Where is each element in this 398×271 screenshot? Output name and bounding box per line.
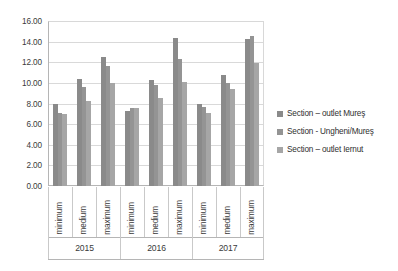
- legend-swatch-icon: [277, 147, 283, 153]
- y-axis-tick-label: 10.00: [0, 78, 42, 87]
- y-axis-label-group: 16.0014.0012.0010.008.006.004.002.000.00: [0, 21, 44, 186]
- x-axis-tick-label: medium: [80, 206, 88, 235]
- x-axis-tick-label: minimum: [200, 202, 208, 235]
- x-axis-tick-cell: maximum: [96, 187, 120, 237]
- bar: [110, 83, 115, 186]
- x-axis-tick-cell: minimum: [192, 187, 216, 237]
- x-axis-tick-cell: maximum: [168, 187, 192, 237]
- x-axis-tick-label: medium: [224, 206, 232, 235]
- x-axis-group-cell: 2015: [48, 237, 120, 259]
- legend-item[interactable]: Section - Ungheni/Mureş: [277, 126, 395, 137]
- y-axis-tick-label: 12.00: [0, 58, 42, 67]
- x-axis-tick-label: minimum: [56, 202, 64, 235]
- x-axis-tick-label: medium: [152, 206, 160, 235]
- bar: [254, 63, 259, 186]
- x-axis-tick-cell: medium: [216, 187, 240, 237]
- x-axis-tick-label: minimum: [128, 202, 136, 235]
- bar: [206, 113, 211, 186]
- bar: [158, 98, 163, 186]
- y-axis-tick-label: 8.00: [0, 99, 42, 108]
- x-axis-group-label: 2015: [75, 243, 94, 253]
- x-axis-tick-cell: minimum: [48, 187, 72, 237]
- bar: [86, 101, 91, 186]
- bar-chart: 16.0014.0012.0010.008.006.004.002.000.00…: [0, 0, 398, 271]
- x-axis-group-cell: 2017: [192, 237, 264, 259]
- x-axis-group-label: 2017: [219, 243, 238, 253]
- y-axis-tick-label: 2.00: [0, 161, 42, 170]
- legend-item[interactable]: Section – outlet Mureş: [277, 108, 395, 119]
- legend-swatch-icon: [277, 111, 283, 117]
- bars-layer: [48, 21, 264, 186]
- bar: [182, 82, 187, 186]
- x-axis-group-label: 2016: [147, 243, 166, 253]
- y-axis-tick-label: 14.00: [0, 37, 42, 46]
- y-axis-tick-label: 0.00: [0, 182, 42, 191]
- legend-swatch-icon: [277, 129, 283, 135]
- x-axis-tick-label: maximum: [248, 200, 256, 235]
- bar: [230, 89, 235, 186]
- x-axis-tick-cell: medium: [144, 187, 168, 237]
- x-axis-tick-cell: medium: [72, 187, 96, 237]
- y-axis-tick-label: 16.00: [0, 17, 42, 26]
- legend-item[interactable]: Section – outlet Iernut: [277, 144, 395, 155]
- legend-item-label: Section – outlet Iernut: [287, 145, 363, 154]
- x-axis-year-row: 201520162017: [48, 237, 264, 260]
- legend-item-label: Section - Ungheni/Mureş: [287, 127, 374, 136]
- y-axis-tick-label: 4.00: [0, 140, 42, 149]
- x-axis-category-row: minimummediummaximumminimummediummaximum…: [48, 187, 264, 238]
- x-axis-group-cell: 2016: [120, 237, 192, 259]
- chart-legend: Section – outlet MureşSection - Ungheni/…: [277, 108, 395, 162]
- bar: [134, 108, 139, 186]
- legend-item-label: Section – outlet Mureş: [287, 109, 365, 118]
- x-axis-tick-label: maximum: [104, 200, 112, 235]
- x-axis-tick-label: maximum: [176, 200, 184, 235]
- y-axis-tick-label: 6.00: [0, 120, 42, 129]
- bar: [62, 114, 67, 186]
- x-axis-tick-cell: maximum: [240, 187, 264, 237]
- x-axis-tick-cell: minimum: [120, 187, 144, 237]
